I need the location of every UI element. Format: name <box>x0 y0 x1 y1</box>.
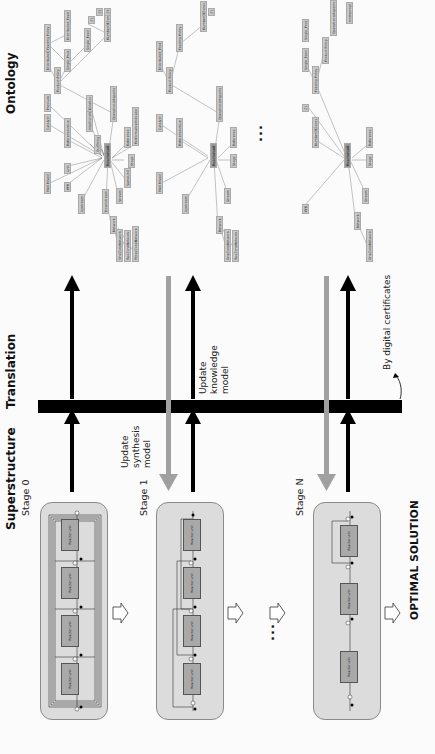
ontology-node: Feeding Policy <box>44 25 51 53</box>
ontology-graph-3: OneZoneNetwork Network Stream Stage Refe… <box>286 2 386 264</box>
ontology-node: Stream <box>224 188 231 204</box>
ontology-node: Unit <box>64 163 71 174</box>
ontology-node: NumberOfZones <box>200 1 207 32</box>
ontology-node: Stage <box>230 154 237 168</box>
update-knowledge-label: Update knowledge model <box>198 345 231 394</box>
update-synthesis-label: Update synthesis model <box>120 426 153 468</box>
ontology-node: Upstream <box>182 194 189 214</box>
ontology-node: Stage <box>366 154 373 168</box>
ontology-node: Catalyst <box>156 114 163 132</box>
ontology-node: ThreeZoneNetwork <box>132 226 139 262</box>
ontology-node: OneZoneNetwork <box>366 229 373 262</box>
ontology-ellipsis: ... <box>250 124 265 142</box>
ontology-hub-node: ReactorUnit <box>344 143 351 168</box>
ontology-node: Feeding Policy <box>176 25 183 53</box>
ontology-node: Stream <box>116 188 123 204</box>
ontology-node: Z1 <box>88 16 95 24</box>
ontology-node: Kinetics <box>86 95 93 112</box>
ontology-node: Catalyst <box>44 114 51 132</box>
ontology-node: Network <box>354 212 361 230</box>
ontology-hub-node: ReactorUnit <box>210 143 217 168</box>
ontology-node: OperationalAspects <box>330 0 337 36</box>
ontology-node: Isothermal <box>346 2 353 24</box>
digital-certificates-label: By digital certificates <box>382 275 392 370</box>
ontology-node: OperationalAspects <box>216 86 223 122</box>
ontology-node: Upstream <box>78 194 85 214</box>
ontology-node: Single_Prod <box>302 19 309 42</box>
ontology-node: Z1 <box>208 8 215 16</box>
ontology-node: Z3 <box>104 8 111 16</box>
ontology-node: PFR <box>302 204 309 214</box>
ontology-hub-node: ReactorUnit <box>104 143 111 168</box>
ontology-node: Z2 <box>96 8 103 16</box>
ontology-node: PerformanceIndicator <box>132 107 139 146</box>
ontology-node: Downstream <box>102 189 109 214</box>
ontology-node: OperationalAspects <box>110 86 117 122</box>
ontology-node: Product Policy <box>166 67 173 94</box>
ontology-node: Well Mixed <box>156 172 163 194</box>
ontology-node: TwoZoneNetwork <box>124 230 131 262</box>
ontology-node: Product Policy <box>322 37 329 64</box>
ontology-node: OneZoneNetwork <box>224 229 231 262</box>
ontology-node: Reference <box>366 127 373 148</box>
ontology-node: Distributed_Feed <box>64 10 71 42</box>
ontology-node: Z1 <box>302 104 309 112</box>
ontology-node: OneZoneNetwork <box>116 229 123 262</box>
ontology-node: Network <box>216 216 223 234</box>
ontology-title: Ontology <box>4 53 18 115</box>
ontology-graph-1: OneZoneNetwork TwoZoneNetwork ThreeZoneN… <box>28 2 140 264</box>
ontology-node: PFR <box>64 182 71 192</box>
ontology-node: Single_Prod <box>64 49 71 72</box>
ontology-node: Stage <box>128 154 135 168</box>
ontology-node: Reference <box>230 127 237 148</box>
ontology-node: Product Policy <box>54 67 61 94</box>
ontology-node: ReferenceValue <box>64 118 71 148</box>
ontology-node: Distributed_Prod <box>156 41 163 72</box>
ontology-node: Feeding Policy <box>312 67 319 95</box>
ontology-graph-2: OneZoneNetwork TwoZoneNetwork Network St… <box>144 2 244 264</box>
figure-canvas: Superstructure Stage 0 Reactor unit Reac… <box>0 0 435 754</box>
ontology-node: Single_Feed <box>84 28 91 52</box>
ontology-node: Reference <box>124 127 131 148</box>
ontology-node: TwoZoneNetwork <box>232 230 239 262</box>
ontology-node: NumberOfZones <box>312 117 319 148</box>
ontology-node: SameUnit <box>124 168 131 188</box>
ontology-node: Pressure <box>44 94 51 112</box>
ontology-node: Stream <box>362 188 369 204</box>
ontology-node: ReferenceValue <box>176 118 183 148</box>
ontology-node: Single_Feed <box>302 48 309 72</box>
ontology-node: Well Mixed <box>44 172 51 194</box>
ontology-node: Network <box>110 216 117 234</box>
ontology-node: OutThing <box>94 135 101 154</box>
